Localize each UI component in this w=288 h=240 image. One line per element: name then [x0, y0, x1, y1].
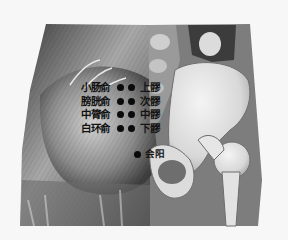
point-dot-huiyang [134, 151, 141, 158]
point-dot-ciliao [128, 98, 135, 105]
point-dot-shangliao [128, 84, 135, 91]
point-dot-baihuanshu [117, 125, 124, 132]
anatomy-figure: 小肠俞 膀胱俞 中膂俞 白环俞 上髎 次髎 中髎 下髎 会阳 [0, 0, 288, 240]
point-dot-xialiao [128, 125, 135, 132]
pelvis-illustration [0, 0, 288, 240]
point-label-xiaochangshu: 小肠俞 [81, 81, 110, 93]
point-dot-zhonglvshu [117, 111, 124, 118]
point-label-huiyang: 会阳 [145, 148, 164, 160]
point-label-zhongliao: 中髎 [140, 108, 159, 120]
point-dot-xiaochangshu [117, 84, 124, 91]
point-label-xialiao: 下髎 [140, 122, 159, 134]
point-label-shangliao: 上髎 [140, 81, 159, 93]
point-label-ciliao: 次髎 [140, 95, 159, 107]
point-dot-pangguangshu [117, 98, 124, 105]
point-label-baihuanshu: 白环俞 [81, 122, 110, 134]
point-dot-zhongliao [128, 111, 135, 118]
point-label-zhonglvshu: 中膂俞 [81, 108, 110, 120]
point-label-pangguangshu: 膀胱俞 [81, 95, 110, 107]
